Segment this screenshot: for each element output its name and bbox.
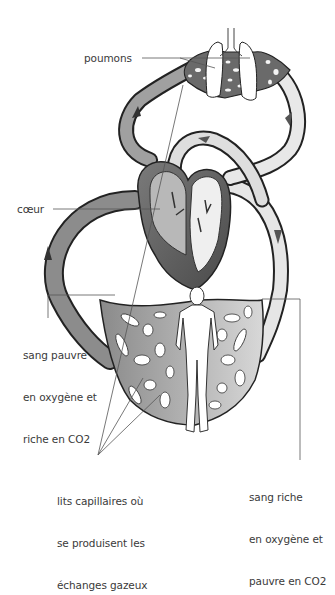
label-capillaries: lits capillaires où se produisent les éc… xyxy=(57,466,147,595)
label-lungs: poumons xyxy=(84,51,132,65)
capillaries-leader-line xyxy=(98,395,160,455)
label-deoxygenated: sang pauvre en oxygène et riche en CO2 xyxy=(23,320,97,460)
label-heart: cœur xyxy=(17,202,44,216)
heart xyxy=(138,162,231,290)
label-oxygenated: sang riche en oxygène et pauvre en CO2 xyxy=(249,462,326,595)
capillaries-leader-line xyxy=(98,378,143,455)
